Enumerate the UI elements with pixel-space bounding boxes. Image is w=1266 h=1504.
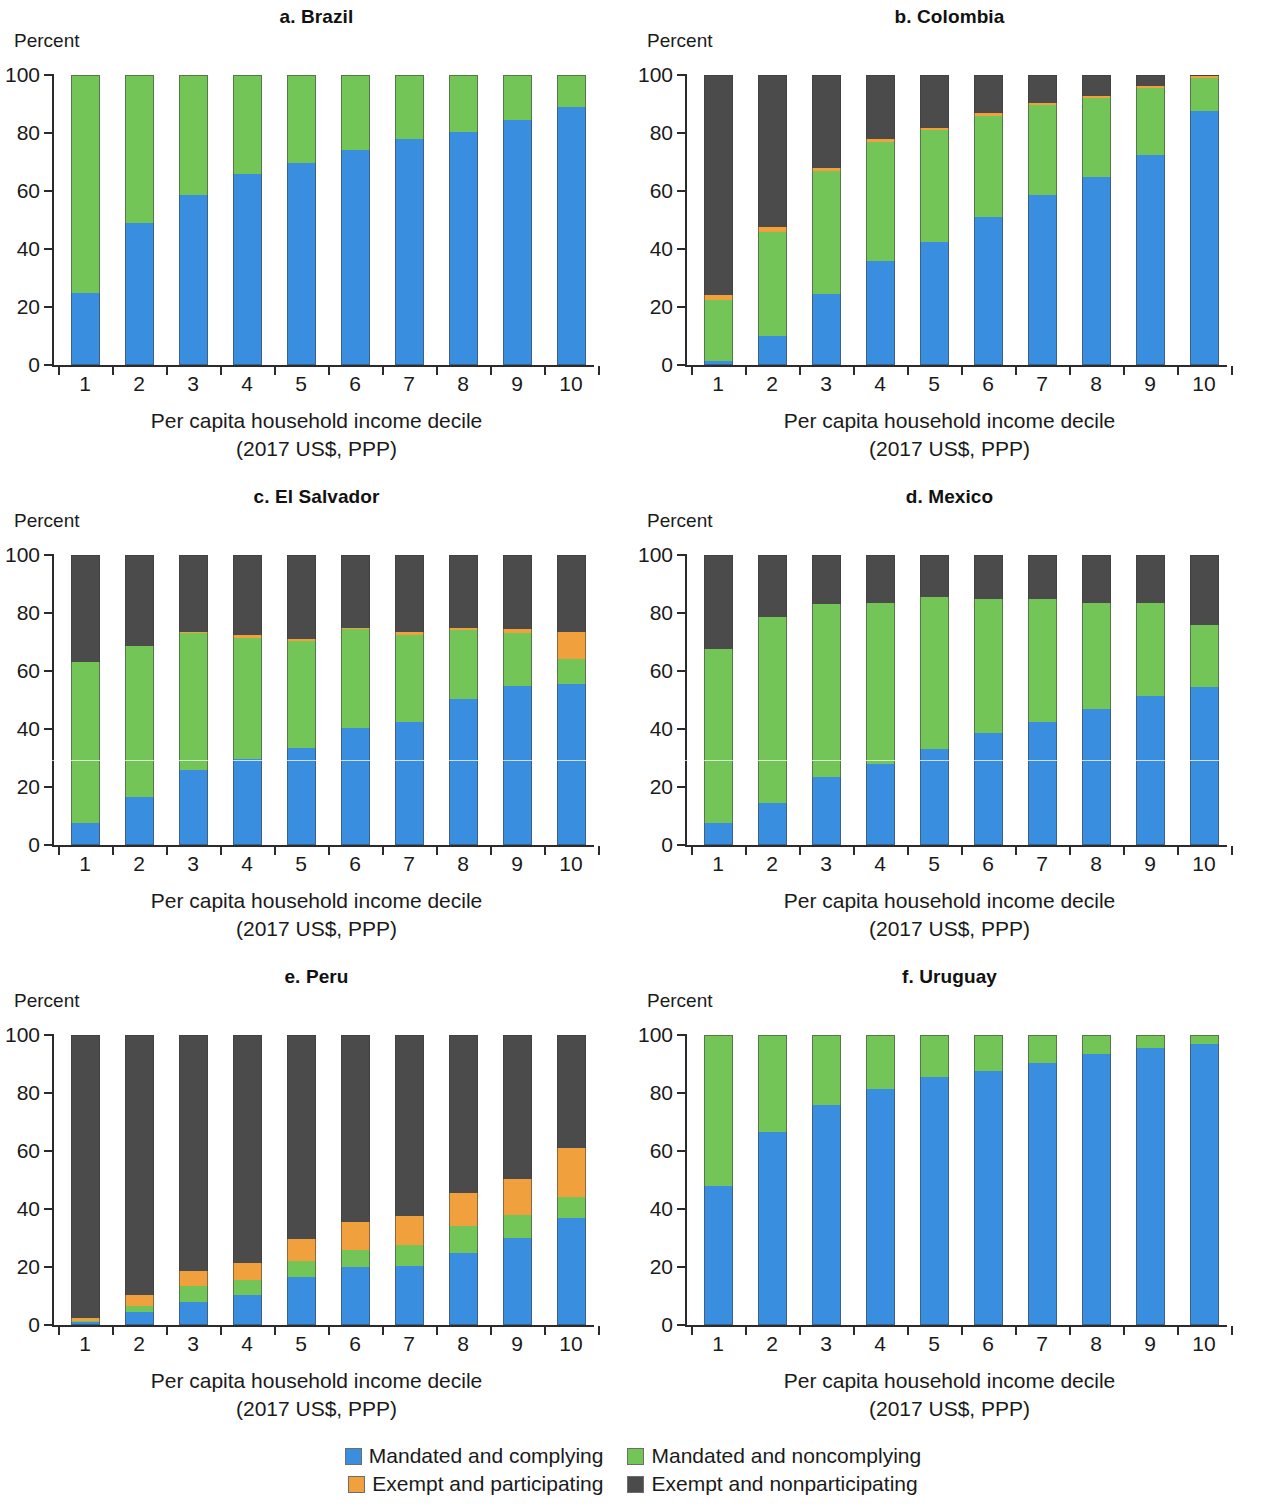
bar-segment-mandated-noncomplying [866, 1035, 895, 1089]
bar-segment-exempt-nonparticipating [71, 555, 100, 662]
y-axis-tick [677, 306, 685, 308]
x-axis-tick [328, 846, 330, 855]
x-axis-tick [58, 846, 60, 855]
x-axis-tick [1123, 366, 1125, 375]
x-axis-title: Per capita household income decile [633, 888, 1266, 914]
bar-segment-mandated-noncomplying [866, 142, 895, 261]
plot-area: 020406080100 [685, 555, 1225, 845]
bar-decile-5 [920, 1035, 949, 1325]
bar-segment-mandated-noncomplying [1028, 599, 1057, 722]
x-axis-tick [907, 846, 909, 855]
bar-segment-mandated-complying [557, 107, 586, 365]
bar-segment-mandated-complying [704, 823, 733, 845]
x-axis-tick [112, 366, 114, 375]
x-axis-category-label: 4 [241, 852, 253, 876]
x-axis-category-label: 6 [982, 852, 994, 876]
x-axis-category-label: 7 [403, 1332, 415, 1356]
y-axis-tick [44, 1092, 52, 1094]
plot-area: 020406080100 [685, 1035, 1225, 1325]
x-axis-title-units: (2017 US$, PPP) [0, 1396, 633, 1422]
x-axis-tick [691, 1326, 693, 1335]
y-axis-tick [677, 844, 685, 846]
bar-segment-mandated-noncomplying [1190, 625, 1219, 687]
y-axis-tick-label: 60 [17, 179, 40, 203]
x-axis-category-label: 1 [712, 1332, 724, 1356]
bar-segment-mandated-complying [449, 132, 478, 365]
bar-segment-mandated-noncomplying [341, 629, 370, 728]
bar-segment-mandated-complying [758, 803, 787, 845]
bar-segment-mandated-noncomplying [557, 75, 586, 107]
y-axis-label: Percent [14, 510, 79, 532]
bar-segment-mandated-complying [287, 163, 316, 365]
bar-decile-5 [920, 555, 949, 845]
x-axis-tick [274, 846, 276, 855]
bar-segment-mandated-noncomplying [125, 1306, 154, 1312]
y-axis-tick-label: 60 [17, 659, 40, 683]
bar-decile-7 [395, 555, 424, 845]
y-axis-label: Percent [14, 990, 79, 1012]
bar-segment-exempt-participating [449, 628, 478, 631]
bar-decile-9 [1136, 75, 1165, 365]
x-axis-category-label: 2 [133, 372, 145, 396]
bar-segment-mandated-complying [1136, 1048, 1165, 1325]
bar-segment-exempt-nonparticipating [395, 1035, 424, 1216]
bar-decile-6 [974, 1035, 1003, 1325]
bar-segment-mandated-complying [503, 686, 532, 846]
bar-decile-10 [557, 75, 586, 365]
bar-segment-exempt-nonparticipating [233, 555, 262, 635]
y-axis-tick-label: 60 [650, 659, 673, 683]
x-axis-category-label: 7 [403, 852, 415, 876]
bar-decile-9 [503, 555, 532, 845]
x-axis-category-label: 3 [820, 372, 832, 396]
y-axis-tick [44, 786, 52, 788]
legend-swatch-gray-icon [627, 1476, 644, 1493]
x-axis-title: Per capita household income decile [0, 1368, 633, 1394]
x-axis-category-label: 8 [1090, 852, 1102, 876]
x-axis-tick [907, 366, 909, 375]
y-axis-tick-label: 40 [17, 1197, 40, 1221]
y-axis-line [685, 1034, 687, 1326]
y-axis-tick [677, 670, 685, 672]
x-axis-tick [745, 846, 747, 855]
bar-segment-mandated-complying [179, 195, 208, 365]
bar-segment-exempt-nonparticipating [1028, 75, 1057, 103]
bar-decile-7 [1028, 1035, 1057, 1325]
legend-label: Exempt and nonparticipating [651, 1472, 917, 1496]
panel-title: f. Uruguay [633, 966, 1266, 988]
legend-item-exempt-nonparticipating: Exempt and nonparticipating [627, 1472, 917, 1496]
x-axis-category-label: 7 [403, 372, 415, 396]
x-axis-tick [907, 1326, 909, 1335]
bar-decile-1 [704, 1035, 733, 1325]
bar-segment-exempt-nonparticipating [920, 75, 949, 128]
bar-segment-mandated-noncomplying [179, 1286, 208, 1302]
x-axis-tick [853, 1326, 855, 1335]
bar-segment-mandated-noncomplying [1136, 603, 1165, 696]
bar-segment-exempt-nonparticipating [287, 1035, 316, 1239]
x-axis-title-units: (2017 US$, PPP) [633, 1396, 1266, 1422]
bar-segment-mandated-noncomplying [233, 75, 262, 174]
x-axis-tick [112, 846, 114, 855]
bar-segment-mandated-complying [395, 1266, 424, 1325]
bar-segment-exempt-nonparticipating [449, 1035, 478, 1193]
bar-segment-mandated-noncomplying [179, 75, 208, 195]
y-axis-tick-label: 20 [17, 295, 40, 319]
y-axis-label: Percent [14, 30, 79, 52]
bar-segment-exempt-nonparticipating [704, 555, 733, 649]
bar-decile-2 [125, 555, 154, 845]
bar-segment-mandated-complying [866, 764, 895, 845]
legend-row-1: Mandated and complying Mandated and nonc… [345, 1444, 921, 1468]
bar-segment-mandated-noncomplying [287, 641, 316, 748]
bar-decile-3 [179, 555, 208, 845]
y-axis-tick-label: 100 [638, 543, 673, 567]
y-axis-tick [44, 364, 52, 366]
bar-decile-3 [179, 1035, 208, 1325]
x-axis-tick [1231, 846, 1233, 855]
bar-decile-4 [233, 1035, 262, 1325]
x-axis-tick [112, 1326, 114, 1335]
x-axis-category-label: 3 [187, 372, 199, 396]
panel-mexico: d. MexicoPercent02040608010012345678910P… [633, 480, 1266, 960]
x-axis-category-label: 10 [559, 1332, 582, 1356]
x-axis-category-label: 6 [982, 1332, 994, 1356]
x-axis-tick [382, 846, 384, 855]
y-axis-line [52, 1034, 54, 1326]
